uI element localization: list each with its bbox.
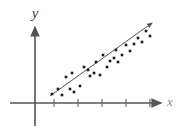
scatter-point (125, 44, 128, 47)
x-axis-label: x (166, 94, 173, 109)
regression-line (50, 23, 152, 96)
y-axis-label: y (30, 5, 39, 21)
scatter-point (69, 88, 72, 91)
scatter-point (102, 54, 105, 57)
scatter-point (149, 35, 152, 38)
scatter-point (137, 37, 140, 40)
plot-canvas: x y (0, 0, 184, 129)
scatter-point (89, 75, 92, 78)
scatter-point (57, 88, 60, 91)
y-axis-group: y (30, 5, 39, 126)
scatter-point (71, 72, 74, 75)
scatter-point (133, 43, 136, 46)
scatter-point (93, 72, 96, 75)
scatter-point (141, 41, 144, 44)
scatter-point (109, 60, 112, 63)
scatter-point (87, 69, 90, 72)
scatter-point (65, 76, 68, 79)
scatter-point (115, 49, 118, 52)
scatter-point (95, 61, 98, 64)
scatter-point (121, 54, 124, 57)
scatter-point (129, 50, 132, 53)
scatter-point (61, 94, 64, 97)
scatter-point (145, 30, 148, 33)
scatter-point (73, 91, 76, 94)
scatter-point (99, 74, 102, 77)
scatter-plot-figure: x y (0, 0, 184, 129)
scatter-point (106, 66, 109, 69)
scatter-point (117, 61, 120, 64)
scatter-points-group (51, 30, 152, 97)
scatter-point (51, 93, 54, 96)
trend-line-group (50, 23, 152, 96)
scatter-point (79, 85, 82, 88)
scatter-point (113, 57, 116, 60)
scatter-point (83, 66, 86, 69)
